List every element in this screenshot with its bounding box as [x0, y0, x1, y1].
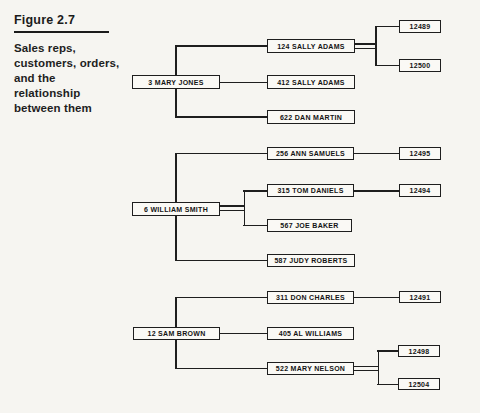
- connector-line: [175, 297, 177, 328]
- figure-label: Figure 2.7: [14, 13, 132, 27]
- customer-node-412-sally-adams: 412 SALLY ADAMS: [267, 75, 355, 89]
- order-node-12489: 12489: [399, 20, 441, 33]
- connector-line: [175, 116, 267, 118]
- order-node-12494: 12494: [399, 184, 441, 197]
- connector-line: [219, 205, 245, 207]
- customer-node-311-don-charles: 311 DON CHARLES: [267, 291, 354, 304]
- connector-line: [377, 384, 398, 386]
- connector-line: [375, 65, 399, 67]
- connector-line: [175, 45, 177, 76]
- caption-line: relationship: [14, 86, 132, 101]
- figure-caption-block: Figure 2.7 Sales reps, customers, orders…: [14, 13, 132, 116]
- connector-line: [175, 153, 267, 155]
- connector-line: [375, 26, 377, 66]
- customer-node-567-joe-baker: 567 JOE BAKER: [267, 219, 352, 232]
- connector-line: [219, 82, 267, 84]
- caption-line: between them: [14, 101, 132, 116]
- rep-node-william-smith: 6 WILLIAM SMITH: [132, 202, 220, 216]
- connector-line: [243, 225, 267, 227]
- connector-line: [175, 153, 177, 203]
- connector-line: [354, 43, 376, 45]
- connector-line: [175, 339, 177, 369]
- rep-node-sam-brown: 12 SAM BROWN: [133, 327, 220, 340]
- connector-line: [353, 370, 378, 372]
- connector-line: [353, 153, 399, 155]
- rep-node-mary-jones: 3 MARY JONES: [132, 75, 220, 89]
- connector-line: [175, 215, 177, 261]
- connector-line: [243, 190, 267, 192]
- customer-node-622-dan-martin: 622 DAN MARTIN: [267, 110, 355, 124]
- connector-line: [219, 333, 267, 335]
- order-node-12500: 12500: [399, 59, 441, 72]
- customer-node-315-tom-daniels: 315 TOM DANIELS: [267, 184, 354, 197]
- caption-line: Sales reps,: [14, 41, 132, 56]
- connector-line: [377, 350, 398, 352]
- connector-line: [244, 190, 246, 226]
- customer-node-256-ann-samuels: 256 ANN SAMUELS: [267, 147, 354, 160]
- connector-line: [175, 297, 267, 299]
- connector-line: [353, 366, 378, 368]
- customer-node-587-judy-roberts: 587 JUDY ROBERTS: [267, 254, 355, 267]
- order-node-12495: 12495: [399, 147, 441, 160]
- order-node-12491: 12491: [399, 291, 441, 303]
- order-node-12504: 12504: [398, 378, 440, 390]
- connector-line: [175, 260, 267, 262]
- connector-line: [375, 26, 399, 28]
- customer-node-522-mary-nelson: 522 MARY NELSON: [267, 362, 354, 375]
- connector-line: [175, 45, 267, 47]
- connector-line: [353, 297, 399, 299]
- customer-node-124-sally-adams: 124 SALLY ADAMS: [267, 39, 355, 53]
- caption-line: and the: [14, 71, 132, 86]
- order-node-12498: 12498: [398, 345, 440, 357]
- connector-line: [219, 210, 245, 212]
- connector-line: [353, 190, 399, 192]
- figure-rule: [14, 31, 109, 33]
- connector-line: [175, 88, 177, 118]
- connector-line: [175, 368, 267, 370]
- caption-line: customers, orders,: [14, 56, 132, 71]
- connector-line: [354, 48, 376, 50]
- connector-line: [378, 350, 380, 385]
- figure-page: Figure 2.7 Sales reps, customers, orders…: [0, 0, 480, 413]
- customer-node-405-al-williams: 405 AL WILLIAMS: [267, 327, 354, 340]
